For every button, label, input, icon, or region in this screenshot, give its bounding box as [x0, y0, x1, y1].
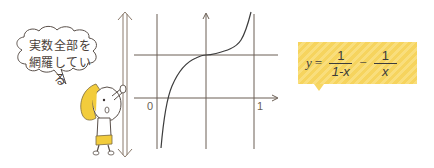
formula-minus: −: [359, 55, 366, 71]
fraction-2-denominator: x: [382, 64, 389, 79]
formula: y = 1 1-x − 1 x: [306, 47, 401, 79]
fraction-2-numerator: 1: [374, 48, 397, 64]
fraction-1-denominator: 1-x: [332, 64, 350, 79]
formula-lhs: y: [306, 55, 312, 71]
fraction-1-numerator: 1: [329, 48, 352, 64]
function-graph: [0, 0, 434, 168]
formula-equals: =: [315, 55, 322, 71]
x-tick-1-label: 1: [257, 100, 263, 112]
formula-box-tail-icon: [314, 84, 324, 91]
x-tick-0-label: 0: [147, 100, 153, 112]
fraction-term-2: 1 x: [374, 48, 397, 79]
fraction-term-1: 1 1-x: [329, 48, 352, 79]
